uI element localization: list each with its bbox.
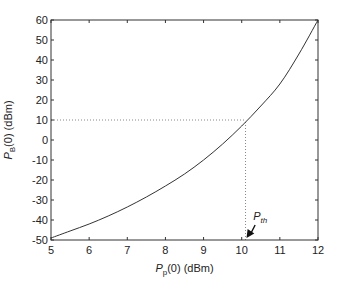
y-tick-label: -50	[32, 234, 48, 246]
x-axis-label: Pp(0) (dBm)	[155, 262, 213, 277]
y-tick-label: -40	[32, 214, 48, 226]
chart: 56789101112 -50-40-30-20-100102030405060…	[0, 0, 338, 284]
y-tick-label: -10	[32, 154, 48, 166]
x-tick-label: 11	[274, 244, 285, 256]
y-tick-label: -30	[32, 194, 48, 206]
x-tick-label: 5	[48, 244, 54, 256]
data-curve	[51, 20, 318, 238]
x-tick-label: 7	[124, 244, 130, 256]
y-tick-label: 10	[36, 114, 48, 126]
x-axis-ticks: 56789101112	[48, 20, 324, 256]
annotations: Pth	[247, 210, 268, 238]
x-tick-label: 6	[86, 244, 92, 256]
y-tick-label: 60	[36, 14, 48, 26]
y-axis-ticks: -50-40-30-20-100102030405060	[32, 14, 318, 246]
x-tick-label: 9	[201, 244, 207, 256]
y-tick-label: 20	[36, 94, 48, 106]
y-tick-label: 0	[42, 134, 48, 146]
reference-lines	[51, 120, 246, 240]
y-tick-label: 50	[36, 34, 48, 46]
y-tick-label: 30	[36, 74, 48, 86]
y-tick-label: -20	[32, 174, 48, 186]
y-tick-label: 40	[36, 54, 48, 66]
y-axis-label: PB(0) (dBm)	[2, 100, 17, 159]
x-tick-label: 10	[236, 244, 248, 256]
x-tick-label: 12	[312, 244, 324, 256]
annotation-label: Pth	[253, 210, 268, 225]
x-tick-label: 8	[162, 244, 168, 256]
plot-frame	[51, 20, 318, 240]
